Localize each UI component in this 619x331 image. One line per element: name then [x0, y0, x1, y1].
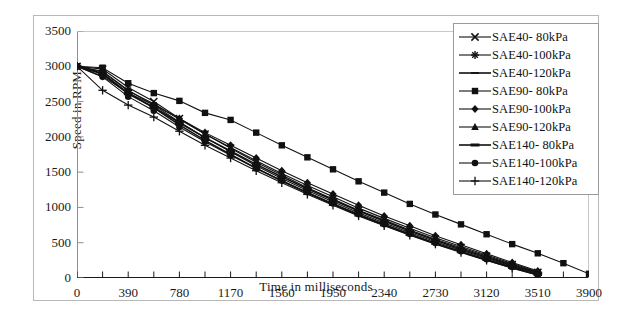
legend-item[interactable]: SAE90- 80kPa [458, 82, 593, 100]
y-axis-tick-label: 3000 [45, 58, 71, 74]
legend-label: SAE140- 80kPa [492, 138, 574, 153]
legend-item[interactable]: SAE90-120kPa [458, 118, 593, 136]
legend-item[interactable]: SAE40- 80kPa [458, 28, 593, 46]
y-axis-tick-label: 2000 [45, 129, 71, 145]
legend-item[interactable]: SAE40-100kPa [458, 46, 593, 64]
legend-label: SAE140-120kPa [492, 174, 577, 189]
legend-marker-thick-dash-icon [458, 138, 492, 152]
legend-label: SAE40-120kPa [492, 66, 571, 81]
x-axis-tick-label: 1560 [269, 285, 295, 301]
legend-label: SAE40- 80kPa [492, 30, 568, 45]
x-axis-tick-label: 2340 [371, 285, 397, 301]
legend-label: SAE40-100kPa [492, 48, 571, 63]
x-axis-tick-label: 780 [170, 285, 190, 301]
x-axis-tick-label: 3510 [525, 285, 551, 301]
legend-label: SAE90-100kPa [492, 102, 571, 117]
legend-item[interactable]: SAE40-120kPa [458, 64, 593, 82]
y-axis-tick-label: 0 [65, 270, 72, 286]
x-axis-tick-label: 3900 [576, 285, 602, 301]
y-axis-tick-label: 2500 [45, 94, 71, 110]
x-axis-tick-label: 0 [74, 285, 81, 301]
x-axis-tick-label: 2730 [422, 285, 448, 301]
legend-marker-circle-icon [458, 156, 492, 170]
legend-item[interactable]: SAE140- 80kPa [458, 136, 593, 154]
legend-item[interactable]: SAE90-100kPa [458, 100, 593, 118]
legend-marker-x-cross-icon [458, 30, 492, 44]
x-axis-tick-label: 3120 [474, 285, 500, 301]
chart-figure: Speed in RPM Time in milliseconds 050010… [33, 15, 599, 301]
x-axis-tick-label: 1170 [218, 285, 244, 301]
y-axis-tick-label: 3500 [45, 23, 71, 39]
legend-marker-dash-icon [458, 66, 492, 80]
legend-label: SAE140-100kPa [492, 156, 577, 171]
y-axis-tick-label: 1500 [45, 164, 71, 180]
y-axis-tick-label: 500 [52, 235, 72, 251]
x-axis-tick-label: 390 [118, 285, 138, 301]
legend-marker-diamond-icon [458, 102, 492, 116]
x-axis-tick-label: 1950 [320, 285, 346, 301]
legend-marker-square-icon [458, 84, 492, 98]
legend-marker-plus-icon [458, 174, 492, 188]
legend-item[interactable]: SAE140-120kPa [458, 172, 593, 190]
legend-marker-triangle-icon [458, 120, 492, 134]
legend-label: SAE90-120kPa [492, 120, 571, 135]
legend-label: SAE90- 80kPa [492, 84, 568, 99]
y-axis-tick-label: 1000 [45, 199, 71, 215]
chart-legend: SAE40- 80kPaSAE40-100kPaSAE40-120kPaSAE9… [453, 23, 599, 195]
legend-item[interactable]: SAE140-100kPa [458, 154, 593, 172]
legend-marker-asterisk-icon [458, 48, 492, 62]
